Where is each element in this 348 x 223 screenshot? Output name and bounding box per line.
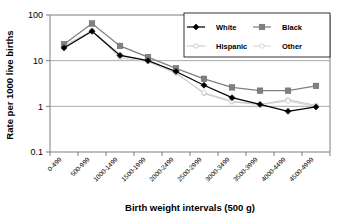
chart-legend: WhiteBlackHispanicOther: [184, 13, 330, 57]
data-point-marker: [313, 83, 319, 89]
data-point-marker: [286, 99, 290, 103]
y-tick-label: 10: [33, 56, 43, 66]
legend-border: [184, 13, 330, 57]
data-point-marker: [259, 24, 265, 30]
legend-label-white: White: [216, 23, 236, 32]
y-tick-label: 0.1: [30, 147, 43, 157]
y-axis-title: Rate per 1000 live births: [4, 30, 15, 139]
data-point-marker: [89, 21, 95, 27]
legend-label-other: Other: [282, 42, 302, 51]
y-tick-label: 100: [28, 10, 43, 20]
data-point-marker: [257, 88, 263, 94]
data-point-marker: [229, 85, 235, 91]
data-point-marker: [117, 43, 123, 49]
legend-label-hispanic: Hispanic: [216, 42, 247, 51]
chart-figure: 1001010.1 0-499500-9991000-14991500-1999…: [0, 0, 348, 223]
y-tick-label: 1: [38, 102, 43, 112]
line-chart-canvas: 1001010.1 0-499500-9991000-14991500-1999…: [0, 0, 348, 223]
x-axis-title: Birth weight intervals (500 g): [125, 202, 255, 213]
data-point-marker: [194, 44, 198, 48]
legend-label-black: Black: [282, 23, 303, 32]
data-point-marker: [201, 76, 207, 82]
data-point-marker: [202, 90, 206, 94]
data-point-marker: [260, 44, 264, 48]
data-point-marker: [285, 88, 291, 94]
